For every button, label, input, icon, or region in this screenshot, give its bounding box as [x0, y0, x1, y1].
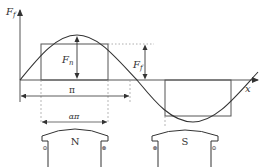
fn-amplitude-annotation: Fn	[61, 36, 80, 79]
ff-label: Ff	[132, 59, 144, 72]
alpha-pi-dimension: απ	[42, 112, 107, 122]
s-left-conductor-cross-icon: ⊗	[152, 144, 157, 151]
n-right-conductor-cross-icon: ⊗	[101, 144, 106, 151]
pi-label: π	[69, 85, 75, 95]
fundamental-sine-wave	[20, 35, 258, 122]
ff-arrow-down-icon	[143, 74, 148, 80]
n-left-conductor-dot-icon: ⊙	[42, 144, 47, 151]
dashed-guides	[41, 80, 165, 128]
fn-label: Fn	[61, 54, 74, 67]
alpha-pi-label: απ	[69, 112, 80, 121]
n-pole-mmf-rectangle	[41, 44, 108, 80]
pi-dimension: π	[21, 85, 129, 96]
s-pole: S ⊗ ⊙	[152, 130, 218, 167]
y-axis: Ff	[5, 6, 20, 102]
n-pole-label: N	[71, 136, 80, 147]
n-pole-face	[42, 129, 108, 136]
ff-arrow-up-icon	[143, 45, 148, 51]
y-axis-label: Ff	[5, 6, 17, 19]
s-right-conductor-dot-icon: ⊙	[211, 144, 216, 151]
fn-arrow-up-icon	[75, 36, 80, 42]
mmf-diagram: Ff x Fn Ff π απ	[0, 0, 266, 167]
s-pole-label: S	[182, 136, 189, 147]
n-pole: N ⊙ ⊗	[42, 129, 108, 167]
fn-arrow-down-icon	[75, 73, 80, 79]
